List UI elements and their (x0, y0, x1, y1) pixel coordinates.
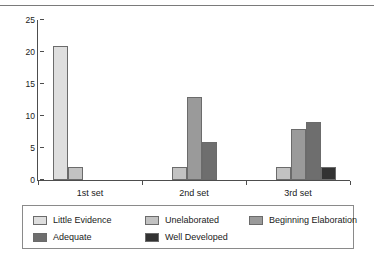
legend-item-label: Unelaborated (165, 215, 219, 226)
bar (187, 97, 202, 180)
legend-item[interactable]: Unelaborated (145, 213, 219, 227)
y-axis-tick-label: 10 (26, 111, 35, 121)
x-axis-category-label: 1st set (38, 187, 142, 199)
y-axis-tick-label: 0 (30, 175, 35, 185)
x-axis-tick-mark (38, 181, 39, 185)
legend-item-label: Well Developed (165, 232, 228, 243)
x-axis-tick-mark (246, 181, 247, 185)
top-divider-rule (0, 5, 374, 6)
bar (172, 167, 187, 180)
y-axis-tick-label: 15 (26, 79, 35, 89)
legend-item[interactable]: Beginning Elaboration (249, 213, 357, 227)
legend-swatch-icon (249, 216, 263, 225)
x-axis-tick-mark (142, 181, 143, 185)
bar (202, 142, 217, 180)
y-axis-tick-label: 25 (26, 15, 35, 25)
x-axis-tick-mark (350, 181, 351, 185)
y-axis-tick-label: 5 (30, 143, 35, 153)
bar (276, 167, 291, 180)
chart-legend: Little EvidenceUnelaboratedBeginning Ela… (22, 205, 354, 249)
legend-swatch-icon (145, 233, 159, 242)
legend-item[interactable]: Adequate (33, 230, 92, 244)
bars-layer (38, 20, 350, 180)
legend-item[interactable]: Little Evidence (33, 213, 112, 227)
x-axis-line (37, 180, 350, 181)
bar (53, 46, 68, 180)
bar (306, 122, 321, 180)
x-axis-category-label: 2nd set (142, 187, 246, 199)
plot-area: 0510152025 1st set2nd set3rd set (0, 12, 374, 192)
legend-item-label: Adequate (53, 232, 92, 243)
legend-swatch-icon (33, 216, 47, 225)
y-axis-tick-label: 20 (26, 47, 35, 57)
legend-swatch-icon (145, 216, 159, 225)
legend-item-label: Beginning Elaboration (269, 215, 357, 226)
bar (321, 167, 336, 180)
legend-item-label: Little Evidence (53, 215, 112, 226)
x-axis-category-label: 3rd set (246, 187, 350, 199)
legend-swatch-icon (33, 233, 47, 242)
bar-chart-figure: 0510152025 1st set2nd set3rd set Little … (0, 0, 374, 259)
bar (68, 167, 83, 180)
bar (291, 129, 306, 180)
legend-item[interactable]: Well Developed (145, 230, 228, 244)
